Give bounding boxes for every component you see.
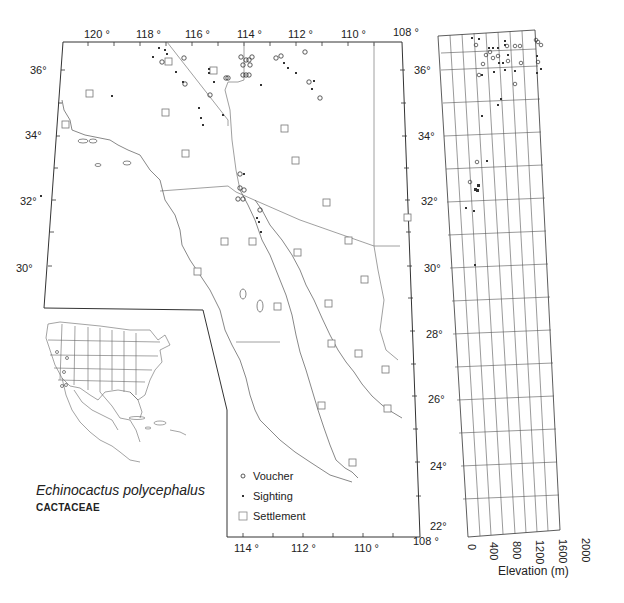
lon-label: 114 °: [237, 28, 262, 40]
left-latitude-labels: 36° 34° 32° 30°: [16, 64, 47, 274]
family-name: CACTACEAE: [36, 502, 100, 513]
elev-tick: 400: [488, 542, 500, 560]
main-map: [44, 42, 421, 537]
species-name: Echinocactus polycephalus: [36, 482, 205, 498]
voucher-symbol-icon: [241, 474, 245, 478]
lon-label: 116 °: [185, 28, 210, 40]
lat-label: 32°: [421, 195, 438, 207]
lat-label: 36°: [414, 64, 431, 76]
elev-tick: 1600: [557, 539, 569, 563]
elevation-axis-title: Elevation (m): [498, 564, 569, 578]
elev-tick: 1200: [534, 540, 546, 564]
sighting-markers: [40, 47, 315, 233]
lon-label: 108 °: [393, 26, 419, 38]
sighting-symbol-icon: [242, 495, 244, 497]
elev-tick: 0: [466, 544, 478, 550]
lat-label: 26°: [428, 393, 445, 405]
top-longitude-labels: 120 ° 118 ° 116 ° 114 ° 112 ° 110 ° 108 …: [84, 26, 419, 40]
lat-label: 34°: [25, 129, 42, 141]
settlement-markers: [62, 58, 411, 466]
legend-voucher-label: Voucher: [253, 470, 294, 482]
elevation-tick-labels: 0 400 800 1200 1600 2000: [466, 538, 592, 564]
legend: Voucher Sighting Settlement: [239, 470, 306, 522]
lon-label: 118 °: [136, 28, 161, 40]
elevation-panel: [438, 30, 560, 537]
lat-label: 36°: [30, 64, 47, 76]
lon-label: 110 °: [341, 28, 366, 40]
political-boundaries: [160, 42, 400, 360]
voucher-markers: [160, 50, 322, 212]
inset-north-america-map: [46, 322, 186, 462]
lon-label: 120 °: [84, 28, 110, 40]
elev-tick: 2000: [580, 538, 592, 562]
bottom-longitude-labels: 114 ° 112 ° 110 ° 108 °: [234, 535, 439, 554]
elev-tick: 800: [511, 541, 523, 559]
lon-label: 112 °: [291, 542, 316, 554]
lon-label: 110 °: [354, 542, 379, 554]
coastlines: [62, 100, 402, 482]
lat-label: 30°: [16, 262, 33, 274]
lon-label: 112 °: [288, 28, 313, 40]
lon-label: 108 °: [413, 535, 439, 547]
lat-label: 28°: [426, 328, 443, 340]
settlement-symbol-icon: [239, 512, 247, 520]
lon-label: 114 °: [234, 542, 259, 554]
lat-label: 34°: [418, 130, 435, 142]
lat-label: 32°: [20, 195, 37, 207]
lat-label: 24°: [430, 460, 447, 472]
legend-settlement-label: Settlement: [253, 510, 306, 522]
legend-sighting-label: Sighting: [253, 490, 293, 502]
lat-label: 22°: [430, 520, 447, 532]
lat-label: 30°: [424, 262, 441, 274]
